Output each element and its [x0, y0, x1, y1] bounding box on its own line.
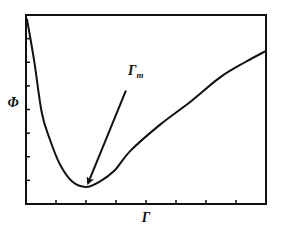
x-axis-label: Γ — [141, 210, 151, 225]
annotation-label-sub: m — [136, 70, 143, 80]
chart: Γm Γ Φ — [0, 0, 282, 231]
annotation-label: Γm — [127, 63, 143, 80]
series-line — [27, 19, 266, 187]
annotation-arrow — [88, 91, 126, 184]
plot-frame — [26, 15, 266, 204]
y-axis-label: Φ — [7, 95, 18, 110]
